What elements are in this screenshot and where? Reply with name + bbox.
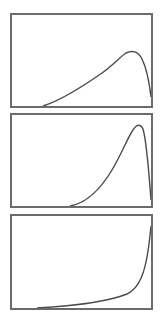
curve-plot-3 — [12, 216, 151, 308]
chart-panel-2 — [10, 113, 153, 208]
curve-plot-1 — [12, 15, 151, 106]
chart-panel-3 — [10, 214, 153, 310]
chart-panel-1 — [10, 13, 153, 108]
curve-plot-2 — [12, 115, 151, 206]
density-curve-2 — [70, 125, 151, 206]
growth-curve-3 — [37, 226, 151, 308]
density-curve-1 — [43, 51, 151, 106]
